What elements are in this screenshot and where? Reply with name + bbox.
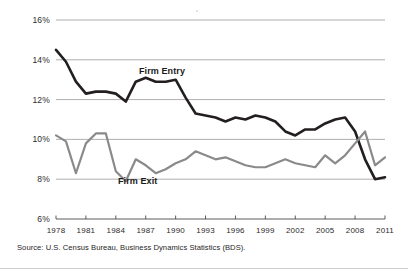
- series-line-firm-entry: [56, 50, 385, 179]
- series-annotation-firm-entry: Firm Entry: [139, 66, 185, 76]
- y-tick-label: 16%: [32, 15, 50, 25]
- y-tick-label: 14%: [32, 55, 50, 65]
- x-tick-label: 2002: [286, 226, 305, 235]
- y-tick-label: 10%: [32, 134, 50, 144]
- x-tick-label: 2011: [376, 226, 394, 235]
- series-line-firm-exit: [56, 131, 385, 181]
- y-tick-label: 6%: [37, 214, 50, 224]
- y-tick-label: 12%: [32, 95, 50, 105]
- line-chart: 6%8%10%12%14%16% 19781981198419871990199…: [0, 0, 408, 240]
- x-tick-label: 1993: [196, 226, 215, 235]
- x-tick-label: 1978: [47, 226, 66, 235]
- footer-divider: [0, 268, 408, 269]
- y-gridlines: [56, 20, 385, 179]
- x-tick-label: 1996: [226, 226, 245, 235]
- x-axis-ticks: [56, 216, 385, 220]
- figure-container: 6%8%10%12%14%16% 19781981198419871990199…: [0, 0, 408, 277]
- y-tick-label: 8%: [37, 174, 50, 184]
- x-tick-label: 1987: [136, 226, 155, 235]
- source-note: Source: U.S. Census Bureau, Business Dyn…: [17, 243, 246, 252]
- chart-plot-area: 6%8%10%12%14%16% 19781981198419871990199…: [0, 0, 408, 240]
- y-axis-tick-labels: 6%8%10%12%14%16%: [32, 15, 50, 224]
- x-tick-label: 1999: [256, 226, 275, 235]
- series-annotation-group: Firm EntryFirm Exit: [118, 66, 185, 186]
- x-tick-label: 1981: [77, 226, 96, 235]
- x-tick-label: 1984: [107, 226, 126, 235]
- x-axis-tick-labels: 1978198119841987199019931996199920022005…: [47, 226, 395, 235]
- data-series-group: [56, 50, 385, 181]
- x-tick-label: 2005: [316, 226, 335, 235]
- x-tick-label: 1990: [166, 226, 185, 235]
- series-annotation-firm-exit: Firm Exit: [118, 176, 157, 186]
- x-tick-label: 2008: [346, 226, 365, 235]
